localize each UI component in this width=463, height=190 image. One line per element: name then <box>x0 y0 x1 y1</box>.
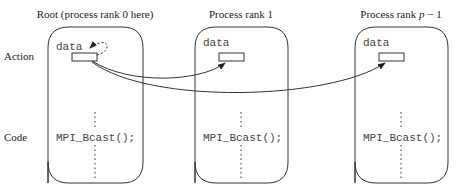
process-rank-p-minus-1: Process rank p − 1 data MPI_Bcast(); <box>355 8 448 183</box>
data-label: data <box>56 41 83 53</box>
data-buffer <box>219 53 244 61</box>
process-rank-1: Process rank 1 data MPI_Bcast(); <box>195 8 288 183</box>
data-buffer <box>379 53 404 61</box>
data-label: data <box>203 37 230 49</box>
row-label-action: Action <box>4 50 34 62</box>
process-root: Root (process rank 0 here) data MPI_Bcas… <box>37 8 154 183</box>
broadcast-arrow-to-rank-p-minus-1 <box>92 62 385 93</box>
process-title: Root (process rank 0 here) <box>37 8 154 21</box>
code-call: MPI_Bcast(); <box>363 132 442 144</box>
data-label: data <box>363 37 390 49</box>
data-buffer <box>72 53 97 61</box>
mpi-bcast-diagram: Action Code Root (process rank 0 here) d… <box>0 0 463 190</box>
code-call: MPI_Bcast(); <box>203 132 282 144</box>
row-label-code: Code <box>4 131 27 143</box>
broadcast-arrow-to-rank-1 <box>92 61 225 78</box>
process-title: Process rank 1 <box>209 8 273 20</box>
process-title: Process rank p − 1 <box>360 8 441 20</box>
code-call: MPI_Bcast(); <box>56 132 135 144</box>
